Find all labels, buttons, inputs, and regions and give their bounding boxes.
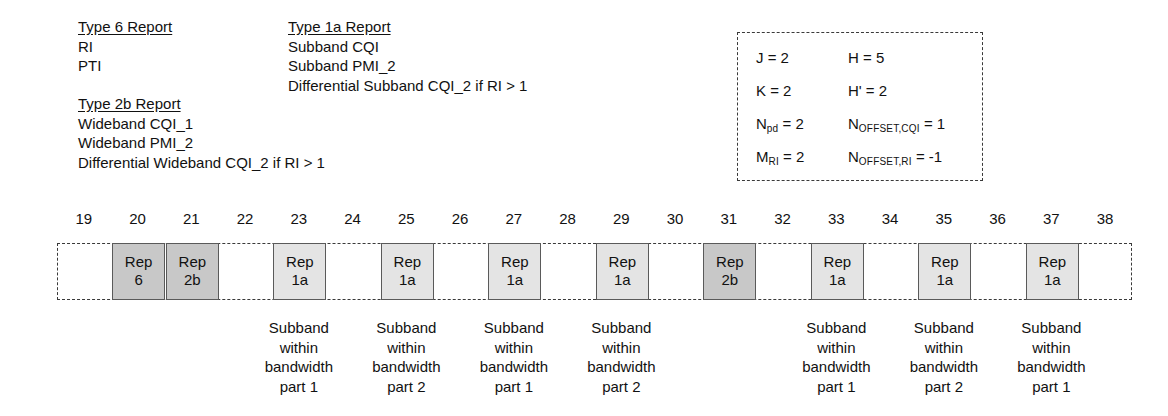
- report-box-label-top: Rep: [716, 253, 744, 271]
- subband-caption-33: Subbandwithinbandwidthpart 1: [781, 318, 891, 396]
- legend-type2b-line-2: Differential Wideband CQI_2 if RI > 1: [78, 153, 325, 173]
- legend-type2b-line-1: Wideband PMI_2: [78, 133, 325, 153]
- subband-caption-line-1: within: [781, 338, 891, 358]
- report-box-29[interactable]: Rep1a: [596, 243, 649, 300]
- parameter-right-1: H' = 2: [848, 82, 968, 99]
- subband-caption-line-1: within: [459, 338, 569, 358]
- tick-label-28: 28: [548, 210, 588, 227]
- tick-label-21: 21: [171, 210, 211, 227]
- report-box-31[interactable]: Rep2b: [703, 243, 756, 300]
- report-box-label-top: Rep: [1039, 253, 1067, 271]
- subframe-index-axis: 1920212223242526272829303132333435363738: [57, 210, 1132, 236]
- report-box-23[interactable]: Rep1a: [273, 243, 326, 300]
- subband-caption-line-3: part 2: [566, 377, 676, 397]
- report-box-label-top: Rep: [286, 253, 314, 271]
- tick-label-27: 27: [494, 210, 534, 227]
- parameter-box: J = 2H = 5K = 2H' = 2Npd = 2NOFFSET,CQI …: [737, 32, 983, 181]
- subband-caption-27: Subbandwithinbandwidthpart 1: [459, 318, 569, 396]
- parameter-right-3: NOFFSET,RI = -1: [848, 148, 968, 165]
- subband-caption-line-1: within: [566, 338, 676, 358]
- report-box-label-type: 1a: [829, 271, 846, 289]
- report-box-25[interactable]: Rep1a: [381, 243, 434, 300]
- subband-caption-line-2: bandwidth: [244, 357, 354, 377]
- legend-type6-line-0: RI: [78, 37, 172, 57]
- parameter-left-3: MRI = 2: [756, 148, 848, 165]
- legend-type6-line-1: PTI: [78, 56, 172, 76]
- legend-type1a-title: Type 1a Report: [288, 17, 527, 37]
- legend-type1a-line-2: Differential Subband CQI_2 if RI > 1: [288, 76, 527, 96]
- tick-label-20: 20: [118, 210, 158, 227]
- tick-label-30: 30: [655, 210, 695, 227]
- subband-caption-line-3: part 1: [244, 377, 354, 397]
- parameter-right-0: H = 5: [848, 49, 968, 66]
- report-box-label-top: Rep: [609, 253, 637, 271]
- subband-caption-23: Subbandwithinbandwidthpart 1: [244, 318, 354, 396]
- report-slot-band: Rep6Rep2bRep1aRep1aRep1aRep1aRep2bRep1aR…: [57, 243, 1132, 300]
- legend-type2b-title: Type 2b Report: [78, 94, 325, 114]
- tick-label-23: 23: [279, 210, 319, 227]
- report-box-label-type: 1a: [937, 271, 954, 289]
- subband-caption-line-0: Subband: [781, 318, 891, 338]
- tick-label-38: 38: [1085, 210, 1125, 227]
- report-box-20[interactable]: Rep6: [112, 243, 165, 300]
- tick-label-32: 32: [763, 210, 803, 227]
- report-box-label-top: Rep: [824, 253, 852, 271]
- parameter-right-2: NOFFSET,CQI = 1: [848, 115, 968, 132]
- subband-caption-line-1: within: [889, 338, 999, 358]
- report-box-label-type: 2b: [184, 271, 201, 289]
- report-box-label-type: 6: [134, 271, 142, 289]
- parameter-grid: J = 2H = 5K = 2H' = 2Npd = 2NOFFSET,CQI …: [756, 41, 968, 173]
- subband-caption-line-0: Subband: [351, 318, 461, 338]
- subband-caption-line-3: part 2: [889, 377, 999, 397]
- parameter-left-0: J = 2: [756, 49, 848, 66]
- tick-label-29: 29: [601, 210, 641, 227]
- report-box-37[interactable]: Rep1a: [1026, 243, 1079, 300]
- report-box-label-type: 1a: [292, 271, 309, 289]
- subband-caption-line-1: within: [351, 338, 461, 358]
- legend-type2b-line-0: Wideband CQI_1: [78, 114, 325, 134]
- tick-label-19: 19: [64, 210, 104, 227]
- tick-label-34: 34: [870, 210, 910, 227]
- report-box-33[interactable]: Rep1a: [811, 243, 864, 300]
- subband-caption-line-2: bandwidth: [459, 357, 569, 377]
- parameter-left-2: Npd = 2: [756, 115, 848, 132]
- tick-label-22: 22: [225, 210, 265, 227]
- subband-caption-25: Subbandwithinbandwidthpart 2: [351, 318, 461, 396]
- subband-caption-35: Subbandwithinbandwidthpart 2: [889, 318, 999, 396]
- parameter-left-1: K = 2: [756, 82, 848, 99]
- legend-type6-report: Type 6 Report RI PTI: [78, 17, 172, 76]
- legend-type2b-report: Type 2b Report Wideband CQI_1 Wideband P…: [78, 94, 325, 172]
- legend-type6-title: Type 6 Report: [78, 17, 172, 37]
- report-box-label-type: 2b: [722, 271, 739, 289]
- subband-caption-line-3: part 1: [459, 377, 569, 397]
- tick-label-25: 25: [386, 210, 426, 227]
- report-box-label-type: 1a: [614, 271, 631, 289]
- subband-caption-line-1: within: [996, 338, 1106, 358]
- subband-caption-line-0: Subband: [889, 318, 999, 338]
- tick-label-26: 26: [440, 210, 480, 227]
- subframe-timeline: 1920212223242526272829303132333435363738…: [57, 210, 1132, 310]
- tick-label-31: 31: [709, 210, 749, 227]
- tick-label-36: 36: [978, 210, 1018, 227]
- subband-caption-29: Subbandwithinbandwidthpart 2: [566, 318, 676, 396]
- report-box-21[interactable]: Rep2b: [166, 243, 219, 300]
- legend-type1a-report: Type 1a Report Subband CQI Subband PMI_2…: [288, 17, 527, 95]
- report-box-27[interactable]: Rep1a: [488, 243, 541, 300]
- subband-caption-line-3: part 1: [781, 377, 891, 397]
- report-box-label-top: Rep: [394, 253, 422, 271]
- tick-label-33: 33: [816, 210, 856, 227]
- subband-caption-row: Subbandwithinbandwidthpart 1Subbandwithi…: [57, 318, 1132, 408]
- report-box-label-top: Rep: [501, 253, 529, 271]
- subband-caption-line-3: part 1: [996, 377, 1106, 397]
- tick-label-35: 35: [924, 210, 964, 227]
- subband-caption-line-1: within: [244, 338, 354, 358]
- report-box-35[interactable]: Rep1a: [918, 243, 971, 300]
- subband-caption-37: Subbandwithinbandwidthpart 1: [996, 318, 1106, 396]
- report-box-label-top: Rep: [179, 253, 207, 271]
- subband-caption-line-0: Subband: [244, 318, 354, 338]
- legend-type1a-line-1: Subband PMI_2: [288, 56, 527, 76]
- report-box-label-type: 1a: [1044, 271, 1061, 289]
- report-box-label-top: Rep: [931, 253, 959, 271]
- report-box-label-top: Rep: [125, 253, 153, 271]
- subband-caption-line-2: bandwidth: [996, 357, 1106, 377]
